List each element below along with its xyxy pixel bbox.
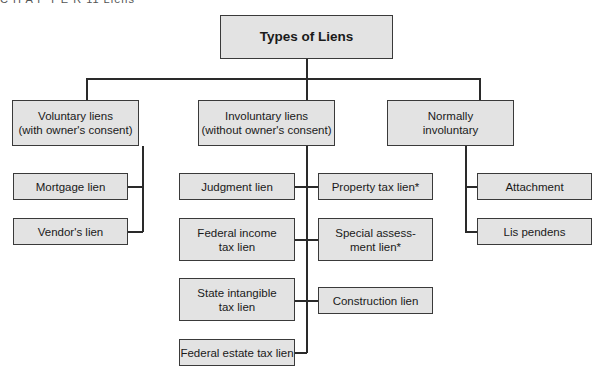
- node-federal-income-tax-lien: Federal income tax lien: [179, 218, 295, 261]
- connector: [294, 239, 318, 241]
- connector: [465, 186, 477, 188]
- category-normally-involuntary: Normally involuntary: [387, 100, 514, 146]
- root-node-types-of-liens: Types of Liens: [220, 15, 393, 59]
- clipped-header-text: C H A P T E R 11 Liens: [0, 0, 135, 5]
- connector: [127, 231, 143, 233]
- connector: [86, 78, 480, 80]
- category-involuntary-liens: Involuntary liens (without owner's conse…: [198, 100, 335, 146]
- node-vendors-lien: Vendor's lien: [13, 218, 128, 245]
- node-lis-pendens: Lis pendens: [477, 218, 592, 245]
- connector: [479, 78, 481, 100]
- node-state-intangible-tax-lien: State intangible tax lien: [179, 278, 295, 321]
- connector: [294, 300, 318, 302]
- connector: [142, 146, 144, 232]
- node-federal-estate-tax-lien: Federal estate tax lien: [179, 339, 295, 366]
- connector: [86, 78, 88, 100]
- connector: [306, 146, 308, 353]
- connector: [465, 146, 467, 232]
- node-special-assessment-lien: Special assess- ment lien*: [318, 218, 433, 261]
- connector: [294, 186, 318, 188]
- node-attachment: Attachment: [477, 173, 592, 200]
- node-mortgage-lien: Mortgage lien: [13, 173, 128, 200]
- connector: [127, 186, 143, 188]
- node-construction-lien: Construction lien: [318, 287, 433, 314]
- connector: [465, 231, 477, 233]
- node-property-tax-lien: Property tax lien*: [318, 173, 433, 200]
- category-voluntary-liens: Voluntary liens (with owner's consent): [12, 100, 139, 146]
- connector: [294, 352, 307, 354]
- node-judgment-lien: Judgment lien: [179, 173, 295, 200]
